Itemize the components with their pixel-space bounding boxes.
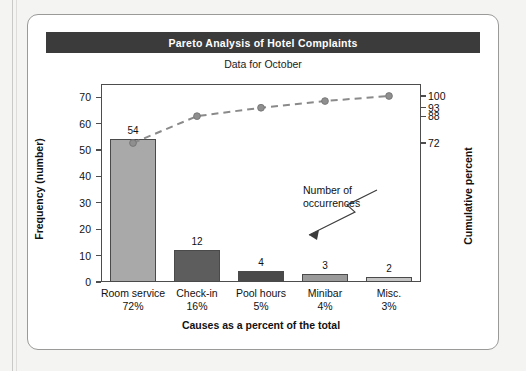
y-tick-label-right: 72 xyxy=(428,137,440,149)
category-label: Check-in16% xyxy=(176,287,217,312)
bar-value-label: 3 xyxy=(322,260,328,271)
y-tick-label-left: 20 xyxy=(65,223,91,235)
y-tick-label-left: 0 xyxy=(65,276,91,288)
category-percent: 16% xyxy=(176,300,217,313)
bar xyxy=(302,274,348,282)
y-tick-mark-left xyxy=(96,255,101,256)
category-name: Minibar xyxy=(308,287,342,299)
x-axis-label: Causes as a percent of the total xyxy=(101,319,421,331)
plot-area: Frequency (number) Cumulative percent 01… xyxy=(0,0,526,371)
bar xyxy=(238,271,284,282)
annotation-line-1: Number of xyxy=(303,184,352,196)
y-tick-label-left: 50 xyxy=(65,144,91,156)
y-tick-mark-right xyxy=(421,142,426,143)
y-tick-mark-right xyxy=(421,116,426,117)
bar-value-label: 4 xyxy=(258,257,264,268)
category-percent: 72% xyxy=(101,300,165,313)
y-tick-mark-right xyxy=(421,95,426,96)
category-percent: 5% xyxy=(236,300,286,313)
category-label: Room service72% xyxy=(101,287,165,312)
y-tick-label-left: 60 xyxy=(65,118,91,130)
bar xyxy=(110,139,156,282)
category-percent: 4% xyxy=(308,300,342,313)
bar xyxy=(366,277,412,282)
category-label: Misc.3% xyxy=(377,287,402,312)
y-tick-mark-left xyxy=(96,149,101,150)
bar-value-label: 54 xyxy=(127,125,138,136)
y-tick-mark-left xyxy=(96,176,101,177)
y-tick-label-left: 30 xyxy=(65,197,91,209)
annotation-line-2: occurrences xyxy=(303,197,360,209)
y-axis-label-left: Frequency (number) xyxy=(33,138,45,240)
category-name: Pool hours xyxy=(236,287,286,299)
y-axis-label-right: Cumulative percent xyxy=(462,147,474,244)
y-tick-label-left: 70 xyxy=(65,91,91,103)
bar-value-label: 12 xyxy=(191,236,202,247)
bar-value-label: 2 xyxy=(386,263,392,274)
y-tick-mark-left xyxy=(96,123,101,124)
category-name: Misc. xyxy=(377,287,402,299)
y-tick-mark-left xyxy=(96,281,101,282)
category-percent: 3% xyxy=(377,300,402,313)
bar xyxy=(174,250,220,282)
y-tick-mark-right xyxy=(421,107,426,108)
y-tick-label-right: 100 xyxy=(428,90,446,102)
y-tick-label-left: 40 xyxy=(65,170,91,182)
y-tick-mark-left xyxy=(96,229,101,230)
category-label: Pool hours5% xyxy=(236,287,286,312)
category-label: Minibar4% xyxy=(308,287,342,312)
annotation-label: Number of occurrences xyxy=(303,184,360,209)
y-tick-label-right: 93 xyxy=(428,102,440,114)
y-tick-mark-left xyxy=(96,202,101,203)
y-tick-mark-left xyxy=(96,97,101,98)
category-name: Room service xyxy=(101,287,165,299)
y-tick-label-left: 10 xyxy=(65,250,91,262)
category-name: Check-in xyxy=(176,287,217,299)
